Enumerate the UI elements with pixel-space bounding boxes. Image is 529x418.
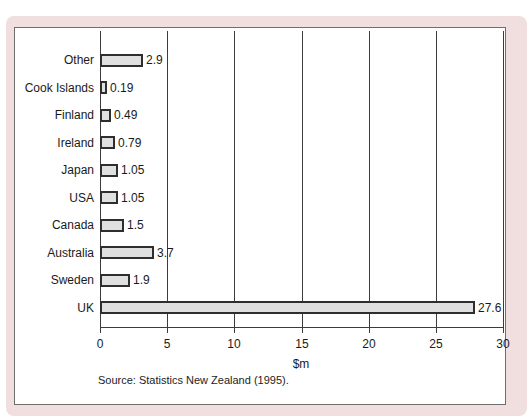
gridline <box>503 31 504 327</box>
tick-label: 25 <box>422 337 450 351</box>
bar-value-label: 27.6 <box>478 300 501 316</box>
bar-value-label: 0.49 <box>114 107 137 123</box>
bar-value-label: 1.9 <box>133 272 150 288</box>
axis-tick <box>369 327 370 333</box>
tick-label: 0 <box>86 337 114 351</box>
bar-value-label: 3.7 <box>157 245 174 261</box>
gridline <box>234 31 235 327</box>
tick-label: 30 <box>489 337 517 351</box>
gridline <box>369 31 370 327</box>
category-label: Sweden <box>15 272 94 288</box>
tick-label: 10 <box>220 337 248 351</box>
category-label: Cook Islands <box>15 80 94 96</box>
gridline <box>302 31 303 327</box>
bar <box>100 219 124 232</box>
category-label: Other <box>15 52 94 68</box>
source-note: Source: Statistics New Zealand (1995). <box>98 374 289 386</box>
bar-value-label: 1.05 <box>121 190 144 206</box>
bar <box>100 274 130 287</box>
bar <box>100 54 143 67</box>
gridline <box>167 31 168 327</box>
category-label: Canada <box>15 217 94 233</box>
axis-tick <box>234 327 235 333</box>
bar <box>100 301 475 314</box>
bar <box>100 81 107 94</box>
bar <box>100 164 118 177</box>
figure: Other2.9Cook Islands0.19Finland0.49Irela… <box>0 0 529 418</box>
gridline <box>436 31 437 327</box>
tick-label: 20 <box>355 337 383 351</box>
category-label: Ireland <box>15 135 94 151</box>
bar <box>100 136 115 149</box>
bar <box>100 191 118 204</box>
category-label: Australia <box>15 245 94 261</box>
category-label: Finland <box>15 107 94 123</box>
axis-tick <box>503 327 504 333</box>
tick-label: 5 <box>153 337 181 351</box>
axis-tick <box>100 327 101 333</box>
category-label: UK <box>15 300 94 316</box>
x-axis-title: $m <box>281 357 321 371</box>
bar <box>100 109 111 122</box>
chart-panel: Other2.9Cook Islands0.19Finland0.49Irela… <box>14 27 506 405</box>
axis-tick <box>302 327 303 333</box>
bar-value-label: 0.79 <box>118 135 141 151</box>
bar-value-label: 1.05 <box>121 162 144 178</box>
bar-value-label: 1.5 <box>127 217 144 233</box>
category-label: USA <box>15 190 94 206</box>
bar-value-label: 2.9 <box>146 52 163 68</box>
tick-label: 15 <box>288 337 316 351</box>
axis-tick <box>436 327 437 333</box>
bar <box>100 246 154 259</box>
axis-tick <box>167 327 168 333</box>
bar-value-label: 0.19 <box>110 80 133 96</box>
category-label: Japan <box>15 162 94 178</box>
